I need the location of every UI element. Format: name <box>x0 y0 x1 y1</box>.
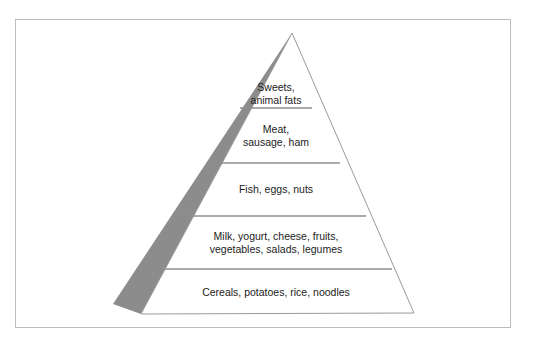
label-line: Cereals, potatoes, rice, noodles <box>156 286 396 299</box>
label-line: Meat, <box>156 123 396 136</box>
label-line: animal fats <box>156 94 396 107</box>
pyramid-outline <box>141 33 414 314</box>
level-label-meat: Meat, sausage, ham <box>156 123 396 148</box>
level-label-cereals: Cereals, potatoes, rice, noodles <box>156 286 396 299</box>
label-line: sausage, ham <box>156 136 396 149</box>
label-line: Fish, eggs, nuts <box>156 183 396 196</box>
level-label-sweets: Sweets, animal fats <box>156 81 396 106</box>
level-label-dairy-veg: Milk, yogurt, cheese, fruits, vegetables… <box>156 230 396 255</box>
label-line: Milk, yogurt, cheese, fruits, <box>156 230 396 243</box>
level-label-fish: Fish, eggs, nuts <box>156 183 396 196</box>
label-line: Sweets, <box>156 81 396 94</box>
label-line: vegetables, salads, legumes <box>156 243 396 256</box>
